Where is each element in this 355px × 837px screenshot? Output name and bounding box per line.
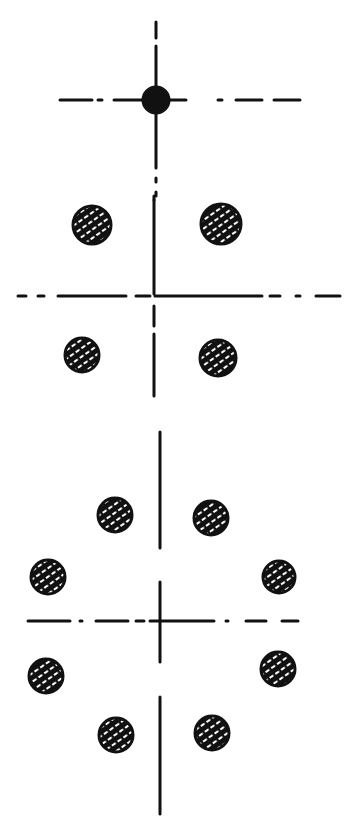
hatched-dot <box>29 659 63 693</box>
figure-single-dot <box>60 22 300 196</box>
figure-eight-dots <box>28 432 298 814</box>
hatched-dot <box>200 340 236 376</box>
hatched-dot <box>194 501 228 535</box>
solid-dot <box>143 87 169 113</box>
hatched-dot <box>261 652 295 686</box>
hatched-dot <box>99 718 133 752</box>
hatched-dot <box>31 560 65 594</box>
figure-four-dots <box>18 196 340 396</box>
hatched-dot <box>65 338 99 372</box>
hatched-dot <box>263 561 295 593</box>
hatched-dot <box>98 498 132 532</box>
hatched-dot <box>201 204 241 244</box>
hatched-dot <box>195 716 229 750</box>
dot-pattern-diagram <box>0 0 355 837</box>
hatched-dot <box>73 206 111 244</box>
